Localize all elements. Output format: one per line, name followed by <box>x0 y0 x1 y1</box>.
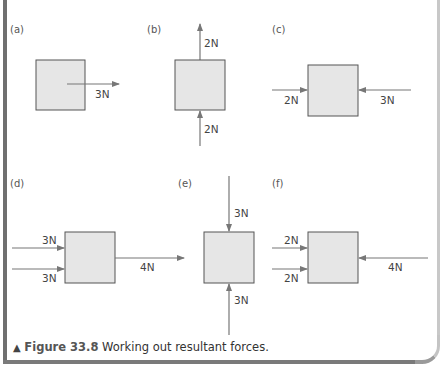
triangle-marker-icon: ▲ <box>13 342 21 353</box>
force-label-c-left: 2N <box>284 94 299 106</box>
panel-d: (d) 3N 3N 4N <box>10 178 184 284</box>
panel-b: (b) 2N 2N <box>147 24 225 146</box>
figure-caption-text: Working out resultant forces. <box>102 340 269 354</box>
force-label-f-lower: 2N <box>284 272 299 284</box>
box-f <box>308 232 358 283</box>
panel-e: (e) 3N 3N <box>178 176 254 335</box>
panel-label-a: (a) <box>10 24 24 35</box>
force-label-c-right: 3N <box>380 94 395 106</box>
force-label-a: 3N <box>95 88 110 100</box>
force-label-f-right: 4N <box>388 261 403 273</box>
box-a <box>36 60 85 110</box>
panel-c: (c) 2N 3N <box>272 24 411 116</box>
panel-a: (a) 3N <box>10 24 119 110</box>
force-diagram: (a) 3N (b) 2N 2N (c) 2N 3N (d) 3N 3N 4N … <box>0 0 441 367</box>
panel-label-d: (d) <box>10 178 24 189</box>
panel-label-b: (b) <box>147 24 161 35</box>
force-label-b-bottom: 2N <box>204 123 219 135</box>
force-label-d-lower: 3N <box>42 272 57 284</box>
panel-label-f: (f) <box>272 178 283 189</box>
force-label-e-bottom: 3N <box>234 294 249 306</box>
force-label-f-upper: 2N <box>284 234 299 246</box>
panel-f: (f) 2N 2N 4N <box>272 178 428 284</box>
force-label-b-top: 2N <box>204 37 219 49</box>
figure-caption: ▲ Figure 33.8 Working out resultant forc… <box>13 340 269 354</box>
force-label-e-top: 3N <box>234 207 249 219</box>
box-d <box>65 232 115 283</box>
force-label-d-upper: 3N <box>42 234 57 246</box>
box-c <box>308 65 358 116</box>
panel-label-c: (c) <box>272 24 285 35</box>
box-e <box>204 232 254 283</box>
panel-label-e: (e) <box>178 178 192 189</box>
force-label-d-right: 4N <box>140 261 155 273</box>
figure-number: Figure 33.8 <box>24 340 98 354</box>
box-b <box>175 60 225 110</box>
